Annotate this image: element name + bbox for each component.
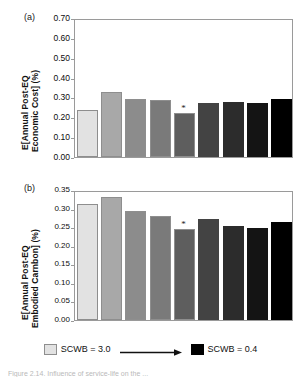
y-tick-mark <box>71 98 74 99</box>
bar <box>174 229 195 320</box>
panel-b-plot-area <box>74 191 293 321</box>
legend-entry-dark: SCWB = 0.4 <box>191 344 258 355</box>
panel-b-letter: (b) <box>24 183 35 193</box>
bar <box>198 103 219 157</box>
y-tick-label: 0.15 <box>54 260 70 268</box>
y-tick-mark <box>71 247 74 248</box>
bar <box>271 222 292 320</box>
y-tick-label: 0.35 <box>54 186 70 194</box>
bar <box>125 99 146 157</box>
y-tick-mark <box>71 284 74 285</box>
y-tick-mark <box>71 19 74 20</box>
y-tick-label: 0.20 <box>54 242 70 250</box>
bar <box>77 204 98 320</box>
panel-a-letter: (a) <box>24 12 35 22</box>
panel-a-plot-area <box>74 19 293 158</box>
panel-b-y-axis-title-line1: E[Annual Post-EQ <box>20 245 30 320</box>
panel-a-bars <box>75 20 292 157</box>
bar <box>101 92 122 157</box>
figure-container: (a) E[Annual Post-EQ Economic Cost] (%) … <box>0 0 301 379</box>
y-tick-label: 0.20 <box>53 113 70 122</box>
bar-annotation-asterisk: * <box>173 104 194 113</box>
y-tick-label: 0.30 <box>54 205 70 213</box>
legend: SCWB = 3.0 SCWB = 0.4 <box>0 341 301 357</box>
gradient-arrow-icon <box>120 344 182 355</box>
legend-entry-light: SCWB = 3.0 <box>44 344 111 355</box>
y-tick-label: 0.40 <box>53 74 70 83</box>
bar-annotation-asterisk: * <box>173 220 194 229</box>
bar <box>247 228 268 320</box>
y-tick-mark <box>71 118 74 119</box>
y-tick-mark <box>71 321 74 322</box>
y-tick-mark <box>71 138 74 139</box>
bar <box>223 102 244 157</box>
y-tick-mark <box>71 191 74 192</box>
y-tick-mark <box>71 158 74 159</box>
bar <box>198 219 219 320</box>
y-tick-label: 0.10 <box>54 279 70 287</box>
y-tick-label: 0.50 <box>53 54 70 63</box>
y-tick-label: 0.00 <box>54 316 70 324</box>
bar <box>174 113 195 157</box>
y-tick-mark <box>71 59 74 60</box>
y-tick-mark <box>71 228 74 229</box>
bar <box>247 103 268 157</box>
y-tick-label: 0.30 <box>53 93 70 102</box>
y-tick-label: 0.25 <box>54 223 70 231</box>
y-tick-mark <box>71 265 74 266</box>
legend-label-dark: SCWB = 0.4 <box>208 344 258 354</box>
bar <box>150 216 171 320</box>
bar <box>101 197 122 320</box>
y-tick-mark <box>71 210 74 211</box>
y-tick-label: 0.60 <box>53 34 70 43</box>
figure-caption: Figure 2.14. Influence of service-life o… <box>8 370 298 377</box>
panel-b: (b) E[Annual Post-EQ Embodied Carnbon] (… <box>0 180 301 335</box>
bar <box>223 226 244 320</box>
legend-label-light: SCWB = 3.0 <box>61 344 111 354</box>
legend-swatch-dark-icon <box>191 344 204 355</box>
y-tick-label: 0.00 <box>53 153 70 162</box>
y-tick-mark <box>71 302 74 303</box>
bar <box>125 211 146 320</box>
panel-b-y-axis-title-line2: Embodied Carnbon] (%) <box>30 229 40 328</box>
panel-a-y-axis-title-line1: E[Annual Post-EQ <box>20 75 30 150</box>
y-tick-label: 0.70 <box>53 14 70 23</box>
y-tick-mark <box>71 79 74 80</box>
panel-b-bars <box>75 192 292 320</box>
bar <box>271 99 292 157</box>
legend-swatch-light-icon <box>44 344 57 355</box>
y-tick-label: 0.05 <box>54 297 70 305</box>
panel-a: (a) E[Annual Post-EQ Economic Cost] (%) … <box>0 0 301 180</box>
bar <box>150 100 171 157</box>
y-tick-label: 0.10 <box>53 133 70 142</box>
panel-a-y-axis-title-line2: Economic Cost] (%) <box>30 70 40 152</box>
bar <box>77 110 98 157</box>
y-tick-mark <box>71 39 74 40</box>
